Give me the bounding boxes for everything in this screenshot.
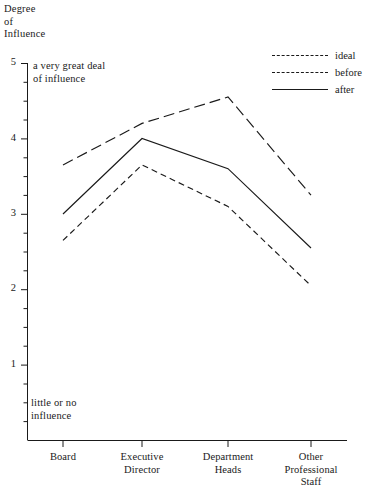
y-minor-ticks bbox=[24, 82, 28, 421]
x-ticks bbox=[63, 441, 311, 448]
legend-item-ideal: ideal bbox=[272, 47, 362, 64]
annotation-low-anchor: little or no influence bbox=[31, 396, 77, 422]
y-major-ticks bbox=[21, 64, 28, 366]
legend-label-after: after bbox=[335, 81, 354, 98]
series-line-before bbox=[63, 165, 311, 286]
y-tick-label-2: 2 bbox=[2, 282, 16, 293]
y-tick-label-4: 4 bbox=[2, 132, 16, 143]
series-line-after bbox=[63, 139, 311, 248]
legend-label-ideal: ideal bbox=[335, 47, 355, 64]
legend-label-before: before bbox=[335, 64, 362, 81]
x-category-label-department-heads: Department Heads bbox=[185, 451, 271, 476]
series-line-ideal bbox=[63, 97, 311, 195]
legend: ideal before after bbox=[272, 47, 362, 98]
annotation-high-anchor: a very great deal of influence bbox=[33, 59, 105, 85]
legend-swatch-before-icon bbox=[272, 68, 328, 77]
y-tick-label-5: 5 bbox=[2, 56, 16, 67]
y-tick-label-3: 3 bbox=[2, 207, 16, 218]
influence-line-chart: Degree of Influence bbox=[0, 0, 371, 503]
legend-item-before: before bbox=[272, 64, 362, 81]
x-category-label-other-professional-staff: Other Professional Staff bbox=[268, 451, 354, 489]
legend-swatch-ideal-icon bbox=[272, 51, 328, 60]
x-category-label-executive-director: Executive Director bbox=[100, 451, 184, 476]
y-tick-label-1: 1 bbox=[2, 358, 16, 369]
x-category-label-board: Board bbox=[23, 451, 103, 464]
legend-item-after: after bbox=[272, 81, 362, 98]
legend-swatch-after-icon bbox=[272, 85, 328, 94]
